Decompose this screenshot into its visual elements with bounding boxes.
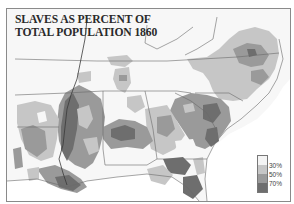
legend-swatch-under-30 [258,156,267,165]
map-title-line-2: TOTAL POPULATION 1860 [15,27,157,40]
legend-label-50: 50% [269,171,282,178]
map-title: SLAVES AS PERCENT OF TOTAL POPULATION 18… [15,14,157,39]
legend-swatch-70 [258,183,267,192]
map-frame: SLAVES AS PERCENT OF TOTAL POPULATION 18… [6,8,291,202]
legend-swatches [257,155,268,193]
legend-label-70: 70% [269,180,282,187]
map-title-line-1: SLAVES AS PERCENT OF [15,14,157,27]
legend-swatch-50 [258,174,267,183]
legend-label-30: 30% [269,162,282,169]
legend-swatch-30 [258,165,267,174]
